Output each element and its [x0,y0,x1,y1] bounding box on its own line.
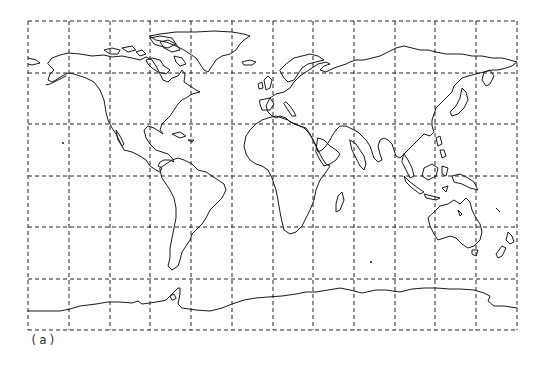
baja-california [116,130,124,146]
borneo [422,164,438,180]
malay-peninsula [402,154,414,178]
iceland [242,60,256,65]
scandinavia [280,54,324,82]
kamchatka [482,70,494,86]
italy [284,102,296,116]
madagascar [336,192,344,212]
antarctica [28,288,517,311]
pacific-islet [496,208,500,212]
tasmania [472,250,478,256]
british-isles [258,76,272,90]
canadian-arctic-islands [104,36,186,74]
figure-caption: (a) [30,333,58,347]
philippines [436,136,446,158]
java [424,194,440,200]
japan [450,88,468,116]
india [350,140,366,170]
sulawesi [442,166,448,176]
south-pacific-dot [370,261,372,263]
eurasia [266,46,517,162]
new-zealand [496,232,514,258]
map-grid [28,21,517,330]
hawaii-dot [62,142,64,144]
north-america [48,53,200,172]
australia [428,198,482,248]
south-america [160,158,226,270]
sumatra [404,176,424,194]
world-map [0,0,548,365]
africa [244,116,330,234]
siberia-tip-west [28,58,40,65]
